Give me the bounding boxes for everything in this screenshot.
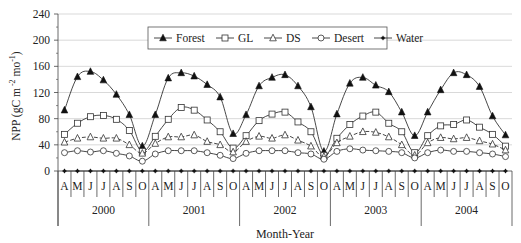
legend-label: Desert [334, 32, 365, 44]
month-label: O [138, 180, 146, 192]
circle-open-marker [464, 148, 470, 154]
year-label: 2002 [274, 204, 297, 216]
circle-open-marker [412, 155, 418, 161]
month-label: J [88, 180, 93, 192]
x-axis-title: Month-Year [256, 227, 314, 241]
legend-label: GL [238, 32, 253, 44]
triangle-filled-marker [334, 110, 341, 117]
star-marker [425, 169, 429, 173]
triangle-open-marker [360, 128, 367, 135]
square-open-marker [386, 120, 392, 126]
triangle-filled-marker [385, 88, 392, 95]
triangle-open-marker [385, 133, 392, 140]
star-marker [140, 169, 144, 173]
circle-open-marker [334, 148, 340, 154]
month-label: S [126, 180, 132, 192]
y-tick-label: 40 [39, 139, 51, 151]
star-marker [205, 169, 209, 173]
month-label: J [361, 180, 366, 192]
star-marker [309, 169, 313, 173]
month-label: J [101, 180, 106, 192]
month-label: A [242, 180, 251, 192]
month-label: J [374, 180, 379, 192]
year-label: 2000 [92, 204, 115, 216]
circle-open-marker [360, 147, 366, 153]
star-marker [374, 169, 378, 173]
square-open-marker [269, 111, 275, 117]
triangle-filled-marker [61, 106, 68, 113]
star-marker [490, 169, 494, 173]
month-label: M [254, 180, 264, 192]
legend-label: Forest [176, 32, 206, 44]
square-open-marker [100, 112, 106, 118]
y-tick-label: 200 [33, 34, 51, 46]
star-marker [270, 169, 274, 173]
star-marker [257, 169, 261, 173]
star-marker [413, 169, 417, 173]
y-axis: 04080120160200240 [33, 8, 58, 226]
month-label: M [72, 180, 82, 192]
square-open-marker [165, 116, 171, 122]
circle-open-marker [438, 147, 444, 153]
star-marker [322, 169, 326, 173]
circle-open-marker [139, 158, 145, 164]
circle-open-marker [256, 148, 262, 154]
triangle-filled-marker [217, 93, 224, 100]
month-label: O [411, 180, 419, 192]
circle-open-marker [230, 156, 236, 162]
triangle-filled-marker [243, 111, 250, 118]
circle-open-marker [152, 151, 158, 157]
square-open-marker [308, 129, 314, 135]
triangle-filled-marker [373, 82, 380, 89]
legend-label: DS [286, 32, 301, 44]
circle-open-marker [217, 152, 223, 158]
data-series [61, 68, 509, 173]
square-open-marker [178, 105, 184, 111]
triangle-filled-marker [152, 111, 159, 118]
triangle-open-marker [152, 140, 159, 147]
circle-open-marker [321, 156, 327, 162]
month-label: A [203, 180, 212, 192]
square-open-marker [282, 109, 288, 115]
month-label: A [151, 180, 160, 192]
star-marker [400, 169, 404, 173]
star-marker [192, 169, 196, 173]
star-marker [335, 169, 339, 173]
square-open-marker [425, 133, 431, 139]
square-open-marker [295, 119, 301, 125]
circle-open-marker [165, 148, 171, 154]
star-marker [179, 169, 183, 173]
circle-open-marker [490, 151, 496, 157]
square-open-marker [191, 107, 197, 113]
month-label: A [294, 180, 303, 192]
legend-label: Water [396, 32, 423, 44]
circle-open-marker [269, 148, 275, 154]
square-open-marker [87, 114, 93, 120]
circle-open-marker [451, 148, 457, 154]
circle-open-marker [191, 148, 197, 154]
circle-open-marker [399, 150, 405, 156]
series-desert [61, 146, 508, 164]
circle-open-marker [74, 148, 80, 154]
star-marker [166, 169, 170, 173]
circle-open-marker [282, 148, 288, 154]
circle-open-marker [61, 150, 67, 156]
month-label: M [345, 180, 355, 192]
y-tick-label: 80 [39, 113, 51, 125]
square-open-marker [256, 118, 262, 124]
triangle-open-marker [295, 136, 302, 143]
triangle-open-marker [398, 141, 405, 148]
triangle-open-marker [87, 133, 94, 140]
circle-open-marker [373, 148, 379, 154]
square-open-marker [347, 122, 353, 128]
circle-open-marker [295, 150, 301, 156]
month-label: O [501, 180, 509, 192]
square-open-marker [74, 120, 80, 126]
square-open-marker [61, 131, 67, 137]
star-marker [75, 169, 79, 173]
triangle-filled-marker [450, 69, 457, 76]
star-marker [464, 169, 468, 173]
triangle-open-marker [191, 131, 198, 138]
triangle-filled-marker [308, 103, 315, 110]
triangle-filled-marker [463, 71, 470, 78]
